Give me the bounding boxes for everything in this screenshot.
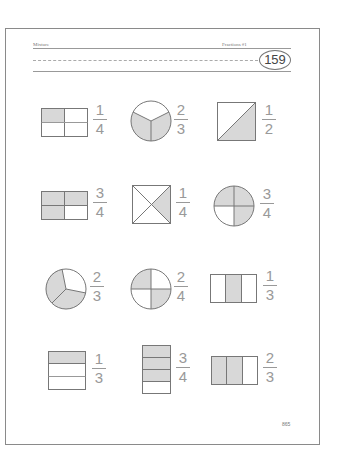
fraction-label: 12: [262, 102, 276, 137]
square-x-quarters-shape: [132, 185, 172, 225]
fraction-label: 14: [176, 185, 190, 220]
square-diagonal-halves-shape: [217, 102, 257, 142]
circle-thirds-shape: [130, 100, 172, 142]
fraction-label: 23: [263, 350, 277, 385]
rectangle-vertical-thirds-shape: [210, 274, 258, 304]
fraction-label: 34: [93, 185, 107, 220]
name-dashed-line: [33, 60, 258, 61]
header-rule-bottom: [33, 71, 291, 72]
page-number: 865: [282, 421, 290, 427]
fraction-label: 23: [90, 269, 104, 304]
fraction-label: 34: [176, 350, 190, 385]
fraction-label: 13: [92, 351, 106, 386]
circle-thirds-shape: [45, 267, 87, 311]
fraction-label: 23: [174, 102, 188, 137]
rectangle-vertical-thirds-shape: [211, 356, 259, 386]
fraction-label: 14: [93, 102, 107, 137]
fraction-label: 13: [263, 268, 277, 303]
fraction-label: 24: [174, 269, 188, 304]
worksheet-number-badge: 159: [259, 50, 291, 70]
circle-quarters-shape: [213, 184, 255, 228]
circle-quarters-shape: [130, 267, 172, 311]
fraction-label: 34: [260, 186, 274, 221]
rectangle-quarters-shape: [41, 191, 89, 221]
header-rule-top: [33, 48, 291, 49]
rectangle-horizontal-quarters-shape: [142, 345, 172, 395]
header-left-label: Mixture: [33, 42, 49, 47]
rectangle-quarters-shape: [41, 108, 89, 138]
rectangle-horizontal-thirds-shape: [48, 351, 88, 391]
header-right-label: Fractions #1: [222, 42, 247, 47]
